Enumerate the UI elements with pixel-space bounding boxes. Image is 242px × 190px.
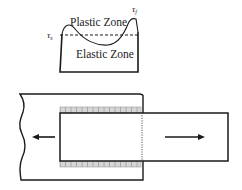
- left-arrow-icon: [32, 134, 55, 140]
- elastic-zone-label: Elastic Zone: [76, 48, 134, 60]
- pullout-specimen: [20, 94, 228, 180]
- pullout-diagram: Plastic Zone Elastic Zone τs τf: [0, 0, 242, 190]
- tau-s-label: τs: [47, 30, 53, 41]
- interface-band-bottom: [60, 161, 141, 167]
- plastic-zone-label: Plastic Zone: [70, 16, 127, 28]
- interface-band-top: [60, 107, 141, 113]
- stress-distribution-plot: Plastic Zone Elastic Zone τs τf: [47, 4, 138, 72]
- tau-f-label: τf: [132, 4, 138, 15]
